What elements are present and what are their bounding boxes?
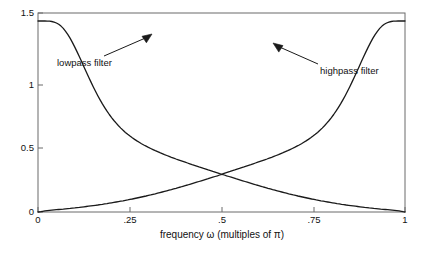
y-tick-label-1-5: 1.5 [6,8,34,18]
annotation-label-lowpass-filter: lowpass filter [57,58,112,68]
y-tick-label-0: 0 [6,207,34,217]
chart-figure: 0 0.5 1 1.5 0 .25 .5 .75 1 frequency ω (… [0,0,425,253]
x-tick-label-0-25: .25 [123,215,136,225]
x-tick-label-0-5: .5 [218,215,226,225]
y-tick-label-1: 1 [6,80,34,90]
x-axis-title: frequency ω (multiples of π) [160,230,284,240]
x-tick-label-0-75: .75 [307,215,320,225]
y-tick-label-0-5: 0.5 [6,143,34,153]
annotation-label-highpass-filter: highpass filter [320,66,379,76]
plot-frame [38,13,405,212]
x-tick-label-0: 0 [35,215,40,225]
x-tick-label-1: 1 [402,215,407,225]
chart-canvas [0,0,425,253]
